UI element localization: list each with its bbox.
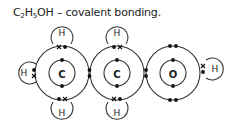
svg-text:H: H bbox=[59, 28, 66, 38]
svg-text:H: H bbox=[114, 108, 121, 118]
hydrogen-atom-left: H bbox=[19, 62, 36, 84]
oxygen-label: O bbox=[169, 69, 178, 80]
svg-text:H: H bbox=[59, 108, 66, 118]
carbon-label: C bbox=[113, 69, 120, 80]
bonding-diagram: C C O H H H bbox=[0, 0, 234, 129]
svg-text:H: H bbox=[21, 68, 28, 78]
carbon-label: C bbox=[58, 69, 65, 80]
carbon-atom-2: C bbox=[90, 46, 144, 100]
hydrogen-atom-right-o: H bbox=[201, 58, 223, 80]
carbon-atom-1: C bbox=[35, 46, 89, 100]
oxygen-atom: O bbox=[146, 44, 200, 102]
svg-text:H: H bbox=[114, 28, 121, 38]
svg-text:H: H bbox=[212, 64, 219, 74]
